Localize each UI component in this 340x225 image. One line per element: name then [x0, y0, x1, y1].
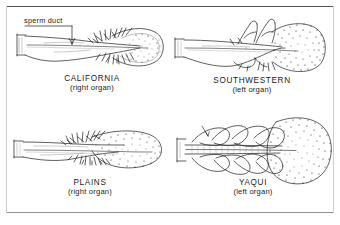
caption-southwestern: SOUTHWESTERN (left organ) — [172, 76, 332, 95]
caption-side-yaqui: (left organ) — [172, 188, 334, 197]
caption-plains: PLAINS (right organ) — [10, 178, 170, 197]
stipple-texture-southwestern — [246, 23, 325, 70]
caption-name-southwestern: SOUTHWESTERN — [172, 76, 332, 85]
caption-california: CALIFORNIA (right organ) — [14, 74, 170, 93]
leader-arrow-icon — [20, 22, 90, 52]
caption-yaqui: YAQUI (left organ) — [172, 178, 334, 197]
panel-yaqui: YAQUI (left organ) — [172, 112, 334, 212]
frame-left-rule — [6, 6, 7, 213]
frame-top-rule — [6, 6, 334, 7]
caption-name-plains: PLAINS — [10, 178, 170, 187]
caption-side-california: (right organ) — [14, 84, 170, 93]
caption-side-southwestern: (left organ) — [172, 86, 332, 95]
panel-southwestern: SOUTHWESTERN (left organ) — [172, 12, 332, 110]
organ-diagram-icon-plains — [10, 118, 170, 184]
caption-side-plains: (right organ) — [10, 188, 170, 197]
caption-name-california: CALIFORNIA — [14, 74, 170, 83]
organ-diagram-icon-southwestern — [172, 12, 332, 82]
panel-plains: PLAINS (right organ) — [10, 118, 170, 212]
figure-plate: CALIFORNIA (right organ) sperm duct — [0, 0, 340, 225]
frame-bottom-rule — [6, 212, 334, 213]
caption-name-yaqui: YAQUI — [172, 178, 334, 187]
